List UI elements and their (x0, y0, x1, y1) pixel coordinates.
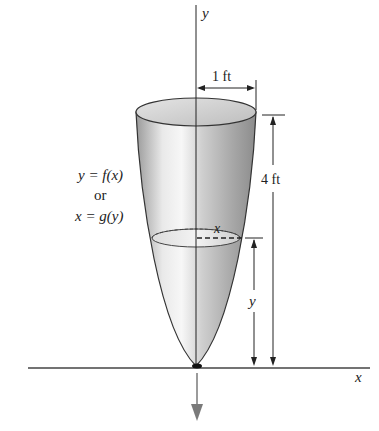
down-arrow-icon (191, 404, 203, 421)
curve-label-line1: y = f(x) (76, 167, 123, 184)
radius-arrow-right-icon (247, 85, 255, 91)
parabolic-tank-diagram: 1 ft 4 ft y y x x y = f(x) or x = g(y) (0, 0, 379, 431)
curve-label-line2: or (94, 187, 107, 203)
level-label: y (247, 293, 256, 309)
slice-radius-label: x (213, 221, 221, 236)
origin-point (192, 364, 202, 369)
radius-arrow-left-icon (197, 85, 205, 91)
curve-label-line3: x = g(y) (74, 208, 123, 225)
y-axis-label: y (200, 5, 209, 21)
radius-label: 1 ft (212, 69, 231, 84)
level-arrow-up-icon (251, 239, 257, 248)
x-axis-label: x (354, 369, 362, 385)
height-arrow-up-icon (270, 116, 276, 125)
height-arrow-down-icon (270, 357, 276, 366)
height-label: 4 ft (261, 172, 280, 187)
level-arrow-down-icon (251, 357, 257, 366)
